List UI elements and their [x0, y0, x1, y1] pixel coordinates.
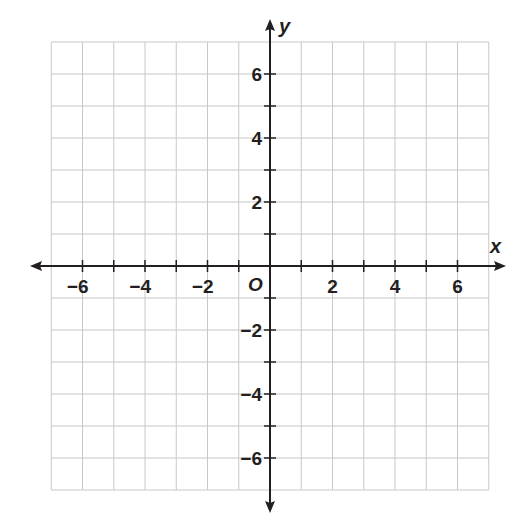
x-tick-label: −4 [129, 276, 151, 297]
y-axis-label: y [278, 15, 291, 37]
y-tick-label: −4 [240, 384, 262, 405]
x-tick-label: −6 [67, 276, 89, 297]
y-tick-label: 6 [251, 64, 262, 85]
y-tick-label: 4 [251, 128, 262, 149]
y-tick-label: −2 [240, 320, 262, 341]
coordinate-plane: −6−4−2246−6−4−2246 x y O [0, 0, 514, 528]
x-tick-label: 6 [452, 276, 463, 297]
origin-label: O [248, 274, 263, 295]
x-tick-label: 2 [327, 276, 338, 297]
x-axis-label: x [489, 235, 502, 257]
y-tick-label: −6 [240, 448, 262, 469]
y-tick-label: 2 [251, 192, 262, 213]
x-tick-label: −2 [192, 276, 214, 297]
x-tick-label: 4 [390, 276, 401, 297]
axes [30, 19, 506, 513]
